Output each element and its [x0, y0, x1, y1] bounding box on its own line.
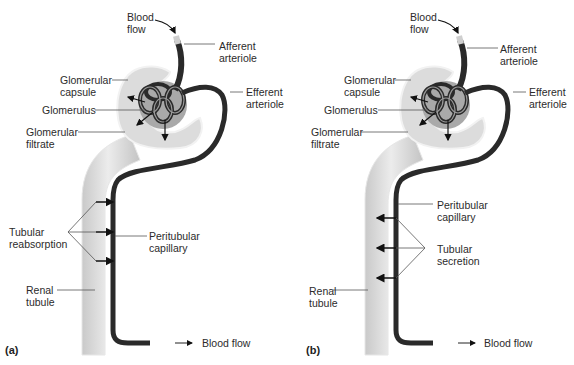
- nephron-diagram: [0, 0, 574, 365]
- label-tubular-secretion: Tubularsecretion: [437, 243, 480, 267]
- label-glomerular-filtrate-b: Glomerularfiltrate: [311, 126, 363, 150]
- label-afferent-arteriole-b: Afferentarteriole: [500, 43, 538, 67]
- panel-tag-b: (b): [306, 344, 320, 356]
- label-glomerulus-b: Glomerulus: [324, 104, 378, 116]
- panel-tag-a: (a): [5, 344, 18, 356]
- panel-b: [333, 20, 526, 355]
- label-tubular-reabsorption: Tubularreabsorption: [9, 226, 67, 250]
- label-renal-tubule-a: Renaltubule: [26, 284, 55, 308]
- label-peritubular-capillary-b: Peritubularcapillary: [437, 199, 488, 223]
- label-afferent-arteriole-a: Afferentarteriole: [219, 40, 257, 64]
- label-blood-flow-in-a: Bloodflow: [127, 11, 154, 35]
- label-blood-flow-out-b: Blood flow: [484, 337, 532, 349]
- panel-a: [57, 20, 243, 355]
- label-peritubular-capillary-a: Peritubularcapillary: [149, 230, 200, 254]
- label-glomerulus-a: Glomerulus: [42, 104, 96, 116]
- label-efferent-arteriole-a: Efferentarteriole: [246, 86, 284, 110]
- label-blood-flow-in-b: Bloodflow: [410, 11, 437, 35]
- label-blood-flow-out-a: Blood flow: [202, 337, 250, 349]
- label-glomerular-capsule-b: Glomerularcapsule: [344, 74, 396, 98]
- label-renal-tubule-b: Renaltubule: [309, 285, 338, 309]
- label-glomerular-capsule-a: Glomerularcapsule: [60, 74, 112, 98]
- label-efferent-arteriole-b: Efferentarteriole: [529, 86, 567, 110]
- label-glomerular-filtrate-a: Glomerularfiltrate: [26, 126, 78, 150]
